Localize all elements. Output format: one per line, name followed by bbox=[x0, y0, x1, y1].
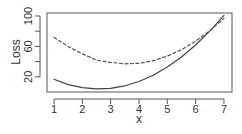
plot-box bbox=[47, 13, 232, 92]
series-group bbox=[54, 15, 224, 89]
series-line-dashed bbox=[54, 18, 224, 63]
x-tick-label: 7 bbox=[221, 103, 227, 115]
y-tick-label: 60 bbox=[22, 40, 34, 52]
x-axis-label: x bbox=[136, 112, 142, 126]
x-tick-label: 1 bbox=[51, 103, 57, 115]
y-tick-label: 20 bbox=[22, 71, 34, 83]
x-tick-label: 6 bbox=[193, 103, 199, 115]
y-axis-label: Loss bbox=[9, 39, 23, 64]
y-tick-label: 100 bbox=[22, 7, 34, 25]
x-tick-label: 5 bbox=[164, 103, 170, 115]
x-tick-label: 2 bbox=[79, 103, 85, 115]
y-axis: 2060100 bbox=[22, 7, 40, 83]
x-tick-label: 3 bbox=[108, 103, 114, 115]
loss-chart: 2060100 1234567 Loss x bbox=[0, 0, 242, 134]
